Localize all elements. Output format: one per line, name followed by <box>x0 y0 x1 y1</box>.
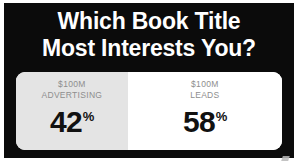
option-value-leads: 58% <box>183 106 227 138</box>
option-label-leads: LEADS <box>190 90 219 101</box>
percent-sign-advertising: % <box>83 109 94 124</box>
poll-card: Which Book Title Most Interests You? $10… <box>4 3 294 158</box>
page-title-line-1: Which Book Title <box>4 8 294 35</box>
poll-option-leads[interactable]: $100M LEADS 58% <box>128 72 282 150</box>
poll-results: $100M ADVERTISING 42% $100M LEADS 58% <box>16 72 282 150</box>
poll-option-advertising[interactable]: $100M ADVERTISING 42% <box>16 72 128 150</box>
percent-sign-leads: % <box>216 109 227 124</box>
option-value-number-leads: 58 <box>183 106 215 138</box>
option-value-advertising: 42% <box>50 106 94 138</box>
option-label-advertising: ADVERTISING <box>41 90 102 101</box>
option-amount-leads: $100M <box>191 79 219 90</box>
page-title-line-2: Most Interests You? <box>4 35 294 62</box>
option-amount-advertising: $100M <box>58 79 86 90</box>
corner-artifact-mark <box>281 156 290 161</box>
option-value-number-advertising: 42 <box>50 106 82 138</box>
page-title: Which Book Title Most Interests You? <box>4 8 294 62</box>
